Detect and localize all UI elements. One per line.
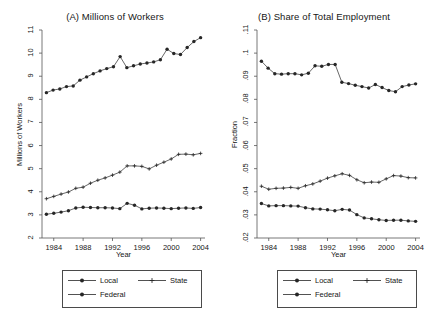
ytick-label: .02 [241,230,250,246]
panel-b-xtick: 2004 [407,243,424,252]
panel-b-ytick: .03 [237,210,253,219]
panel-a-ytick: 2 [22,233,38,242]
panel-b-ytick: .06 [237,141,253,150]
panel-a-title: (A) Millions of Workers [0,11,216,22]
ytick-label: 6 [26,137,35,153]
panel-b-ytick: .05 [237,164,253,173]
ytick-label: .11 [241,22,250,38]
ytick-label: .09 [241,68,250,84]
legend-plus-marker-icon [137,276,167,285]
panel-a-ytick: 6 [22,141,38,150]
panel-a-xtick: 1984 [45,243,62,252]
ytick-label: .1 [241,45,250,61]
legend-label: Federal [315,290,340,299]
legend-circle-marker-icon [282,290,312,299]
panel-b-legend-item-local[interactable]: Local [282,276,333,285]
ytick-label: .03 [241,206,250,222]
ytick-label: 9 [26,68,35,84]
legend-circle-marker-icon [67,290,97,299]
panel-a-ytick: 8 [22,94,38,103]
panel-b-ytick: .04 [237,187,253,196]
ytick-label: 8 [26,91,35,107]
ytick-label: .05 [241,160,250,176]
panel-a: (A) Millions of Workers Millions of Work… [0,0,216,313]
panel-b-ytick: .11 [237,25,253,34]
panel-b-title: (B) Share of Total Employment [217,11,433,22]
legend-circle-marker-icon [282,276,312,285]
legend-label: State [385,276,403,285]
panel-b: (B) Share of Total Employment Fraction Y… [217,0,433,313]
ytick-label: 3 [26,206,35,222]
panel-b-ytick: .07 [237,117,253,126]
panel-a-ylabel: Millions of Workers [14,30,26,238]
panel-a-legend-item-state[interactable]: State [137,276,188,285]
panel-b-xtick: 1988 [290,243,307,252]
legend-circle-marker-icon [67,276,97,285]
panel-a-xtick: 2000 [163,243,180,252]
panel-a-legend-item-local[interactable]: Local [67,276,118,285]
panel-b-legend-item-state[interactable]: State [352,276,403,285]
panel-b-legend-item-federal[interactable]: Federal [282,290,340,299]
panel-a-ytick: 9 [22,71,38,80]
panel-a-plot-area [42,30,205,238]
panel-b-xtick: 1992 [319,243,336,252]
ytick-label: 4 [26,183,35,199]
panel-a-ytick: 10 [22,48,38,57]
panel-a-legend: LocalFederalState [62,270,202,308]
panel-a-ytick: 4 [22,187,38,196]
panel-a-ytick: 5 [22,164,38,173]
panel-a-xtick: 1988 [75,243,92,252]
panel-a-ytick: 11 [22,25,38,34]
panel-b-ytick: .1 [237,48,253,57]
panel-b-xtick: 2000 [378,243,395,252]
panel-b-ytick: .02 [237,233,253,242]
ytick-label: .04 [241,183,250,199]
legend-label: Local [100,276,118,285]
figure-root: (A) Millions of Workers Millions of Work… [0,0,433,313]
legend-label: Local [315,276,333,285]
ytick-label: 11 [26,22,35,38]
legend-label: Federal [100,290,125,299]
legend-label: State [170,276,188,285]
panel-b-ytick: .08 [237,94,253,103]
ytick-label: 7 [26,114,35,130]
panel-b-svg [257,30,420,238]
panel-a-xtick: 1996 [134,243,151,252]
ytick-label: .06 [241,137,250,153]
panel-b-ytick: .09 [237,71,253,80]
legend-plus-marker-icon [352,276,382,285]
panel-b-xlabel: Year [257,250,420,259]
ytick-label: 10 [26,45,35,61]
panel-a-ytick: 7 [22,117,38,126]
ytick-label: 2 [26,230,35,246]
panel-a-ytick: 3 [22,210,38,219]
panel-a-xtick: 2004 [192,243,209,252]
ytick-label: .08 [241,91,250,107]
panel-a-xtick: 1992 [104,243,121,252]
ytick-label: 5 [26,160,35,176]
panel-b-xtick: 1996 [349,243,366,252]
panel-b-xtick: 1984 [260,243,277,252]
ytick-label: .07 [241,114,250,130]
panel-a-svg [42,30,205,238]
panel-b-legend: LocalFederalState [277,270,417,308]
panel-b-ylabel: Fraction [229,30,241,238]
panel-b-plot-area [257,30,420,238]
panel-a-legend-item-federal[interactable]: Federal [67,290,125,299]
panel-a-xlabel: Year [42,250,205,259]
